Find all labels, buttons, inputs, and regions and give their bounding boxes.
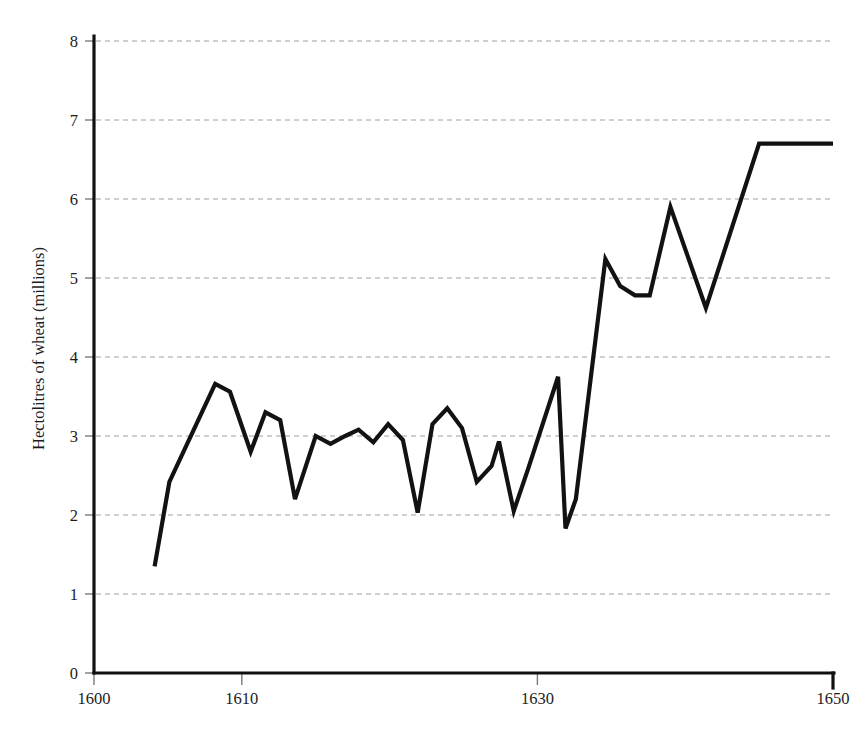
y-tick-label: 6: [70, 190, 78, 209]
y-tick-label: 4: [70, 348, 78, 367]
x-tick-label: 1650: [817, 689, 850, 708]
y-tick-label: 1: [70, 585, 78, 604]
y-tick-label: 3: [70, 427, 78, 446]
gridlines-group: [96, 41, 834, 594]
y-axis-title: Hectolitres of wheat (millions): [29, 247, 48, 450]
wheat-data-line: [155, 144, 833, 567]
x-tick-marks-group: [94, 673, 833, 685]
x-tick-label: 1630: [521, 689, 554, 708]
y-tick-labels-group: 012345678: [70, 32, 78, 683]
x-tick-label: 1610: [225, 689, 258, 708]
cropped-caption: [8, 722, 478, 730]
y-tick-label: 7: [70, 111, 78, 130]
chart-figure: 012345678 1600161016301650 Hectolitres o…: [0, 0, 863, 730]
x-tick-label: 1600: [78, 689, 111, 708]
y-tick-label: 8: [70, 32, 78, 51]
y-tick-label: 5: [70, 269, 78, 288]
y-tick-label: 2: [70, 506, 78, 525]
line-chart: 012345678 1600161016301650 Hectolitres o…: [0, 0, 863, 730]
x-tick-labels-group: 1600161016301650: [78, 689, 850, 708]
y-tick-label: 0: [70, 664, 78, 683]
